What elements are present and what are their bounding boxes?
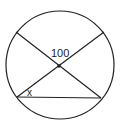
central-angle-label: 100: [51, 47, 69, 59]
circle-diagram: 100 x: [0, 0, 122, 129]
angle-x-label: x: [27, 87, 32, 98]
center-point: [57, 64, 61, 68]
